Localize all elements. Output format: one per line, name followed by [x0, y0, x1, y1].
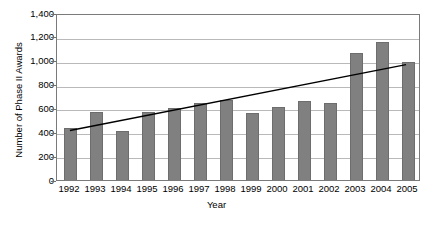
y-axis-tick-mark [51, 61, 56, 62]
x-axis-tick-label: 1999 [238, 182, 264, 196]
y-axis-tick-mark [51, 37, 56, 38]
x-axis-tick-label: 1997 [186, 182, 212, 196]
y-axis-tick-labels: 02004006008001,0001,2001,400 [10, 0, 54, 225]
x-axis-tick-label: 2002 [316, 182, 342, 196]
trendline [57, 15, 419, 180]
y-axis-tick-mark [51, 181, 56, 182]
x-axis-tick-labels: 1992199319941995199619971998199920002001… [56, 182, 420, 198]
y-axis-tick-mark [51, 109, 56, 110]
y-axis-tick-label: 600 [10, 103, 54, 115]
y-axis-tick-label: 1,200 [10, 31, 54, 43]
x-axis-tick-label: 1993 [82, 182, 108, 196]
x-axis-tick-label: 2004 [368, 182, 394, 196]
x-axis-tick-label: 1992 [56, 182, 82, 196]
y-axis-tick-label: 0 [10, 175, 54, 187]
trendline-segment [70, 64, 406, 130]
x-axis-tick-label: 1994 [108, 182, 134, 196]
y-axis-tick-label: 1,400 [10, 8, 54, 20]
y-axis-tick-label: 1,000 [10, 55, 54, 67]
bar-chart: Number of Phase II Awards 02004006008001… [0, 0, 433, 225]
y-axis-tick-mark [51, 14, 56, 15]
x-axis-title: Year [0, 199, 433, 210]
x-axis-tick-label: 2003 [342, 182, 368, 196]
x-axis-tick-label: 1996 [160, 182, 186, 196]
x-axis-tick-label: 2000 [264, 182, 290, 196]
y-axis-tick-mark [51, 133, 56, 134]
x-axis-tick-label: 1998 [212, 182, 238, 196]
y-axis-tick-label: 400 [10, 127, 54, 139]
x-axis-tick-label: 2001 [290, 182, 316, 196]
y-axis-tick-mark [51, 157, 56, 158]
plot-area [56, 14, 420, 181]
x-axis-tick-label: 1995 [134, 182, 160, 196]
y-axis-tick-label: 200 [10, 151, 54, 163]
x-axis-tick-label: 2005 [394, 182, 420, 196]
y-axis-tick-label: 800 [10, 79, 54, 91]
y-axis-tick-mark [51, 85, 56, 86]
